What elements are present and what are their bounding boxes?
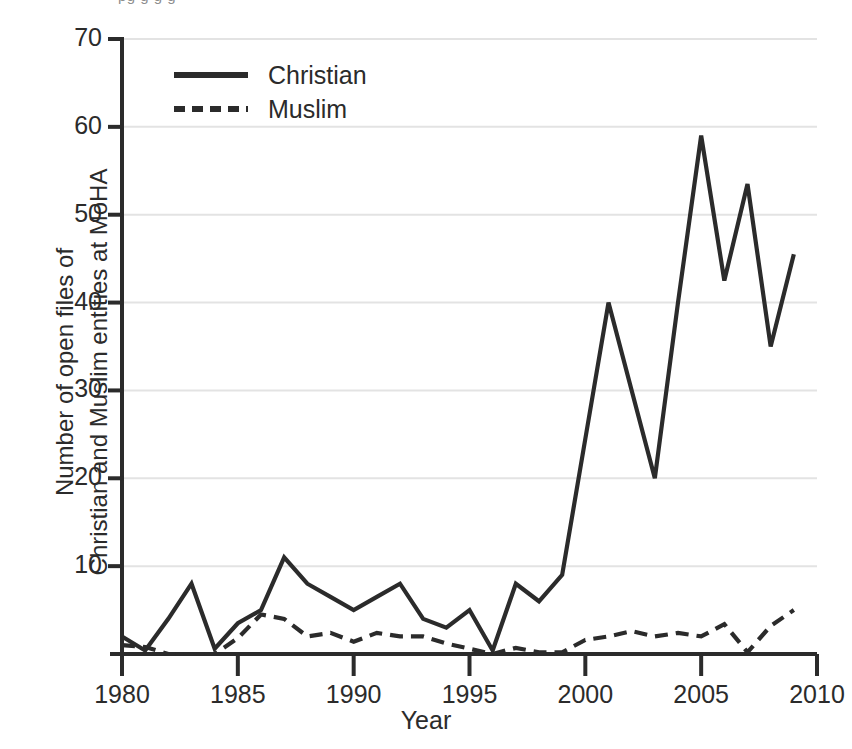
x-tick-label: 2010 xyxy=(783,680,851,709)
x-tick-label: 2005 xyxy=(667,680,735,709)
x-axis-ticks xyxy=(122,654,817,676)
legend-label-muslim: Muslim xyxy=(268,95,347,124)
legend-label-christian: Christian xyxy=(268,61,367,90)
y-axis-title-line-1: Number of open files of xyxy=(48,92,82,652)
legend-item-christian: Christian xyxy=(172,58,367,92)
data-series-group xyxy=(122,136,794,654)
series-line-christian xyxy=(122,136,794,651)
y-axis-title-line-2: Christian and Muslim entities at MoHA xyxy=(82,92,116,652)
x-tick-label: 1985 xyxy=(204,680,272,709)
x-tick-label: 1990 xyxy=(320,680,388,709)
chart-legend: Christian Muslim xyxy=(172,58,367,126)
line-chart-plot xyxy=(0,0,852,749)
legend-swatch-solid-icon xyxy=(172,66,250,84)
y-tick-label: 70 xyxy=(30,23,102,52)
y-axis-title: Number of open files of Christian and Mu… xyxy=(48,92,116,652)
x-tick-label: 1995 xyxy=(436,680,504,709)
legend-swatch-dashed-icon xyxy=(172,100,250,118)
chart-figure: pg g g g 1980198519901995200020052010 10… xyxy=(0,0,852,749)
axis-lines xyxy=(110,39,817,676)
x-tick-label: 2000 xyxy=(551,680,619,709)
x-axis-title: Year xyxy=(0,706,852,735)
legend-item-muslim: Muslim xyxy=(172,92,367,126)
x-tick-label: 1980 xyxy=(88,680,156,709)
